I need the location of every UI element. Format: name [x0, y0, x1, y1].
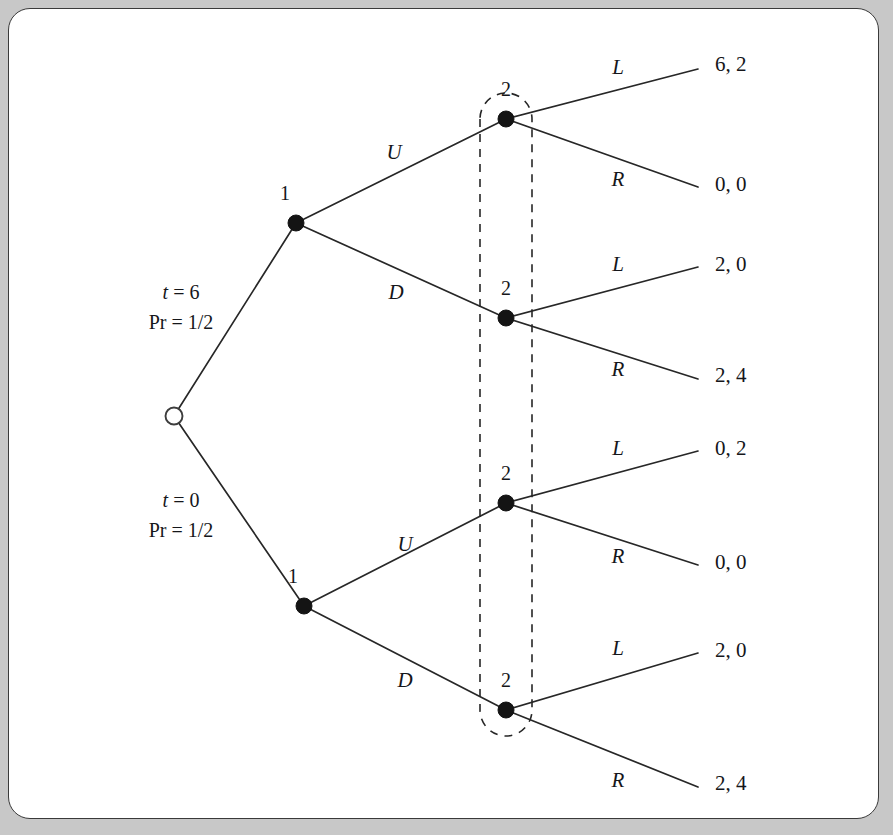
figure-panel: 1 1 2 2 2 2 t = 6 Pr = 1/2 t = 0 Pr = 1/…: [8, 8, 879, 819]
edge-p2-c-L: [506, 451, 698, 503]
payoff-label-2: 0, 0: [715, 172, 747, 196]
edge-p1-top-U: [296, 119, 506, 223]
player1-node-bottom: [296, 598, 312, 614]
player2-node-a: [498, 111, 514, 127]
player2-node-d: [498, 702, 514, 718]
payoff-label-6: 0, 0: [715, 550, 747, 574]
action-label-L-1: L: [611, 55, 624, 79]
payoff-label-1: 6, 2: [715, 52, 747, 76]
chance-branch-up-probability: Pr = 1/2: [149, 311, 214, 333]
player2-node-b: [498, 310, 514, 326]
action-label-U-bottom: U: [397, 532, 414, 556]
chance-branch-down-probability: Pr = 1/2: [149, 519, 214, 541]
chance-node: [166, 408, 183, 425]
player1-edges: [296, 119, 506, 710]
payoff-label-5: 0, 2: [715, 436, 747, 460]
player2-node-c-label: 2: [501, 462, 511, 484]
player2-node-a-label: 2: [501, 78, 511, 100]
player2-node-c: [498, 495, 514, 511]
edge-p2-b-L: [506, 267, 698, 318]
player2-node-b-label: 2: [501, 277, 511, 299]
player1-node-top-label: 1: [280, 182, 290, 204]
action-label-D-top: D: [387, 280, 403, 304]
action-label-L-2: L: [611, 252, 624, 276]
payoff-label-8: 2, 4: [715, 771, 747, 795]
player2-information-set: [480, 93, 532, 736]
game-tree-diagram: 1 1 2 2 2 2 t = 6 Pr = 1/2 t = 0 Pr = 1/…: [9, 9, 879, 819]
chance-branch-down-type: t = 0: [163, 489, 200, 511]
edge-p1-bottom-D: [304, 606, 506, 710]
edge-p2-b-R: [506, 318, 698, 379]
payoff-label-7: 2, 0: [715, 638, 747, 662]
action-label-R-2: R: [611, 357, 625, 381]
edge-p2-a-R: [506, 119, 698, 187]
payoff-label-3: 2, 0: [715, 252, 747, 276]
action-label-R-1: R: [611, 167, 625, 191]
action-label-U-top: U: [386, 140, 403, 164]
edge-p2-d-R: [506, 710, 698, 787]
action-label-R-3: R: [611, 544, 625, 568]
action-label-L-3: L: [611, 436, 624, 460]
action-label-R-4: R: [611, 768, 625, 792]
player1-node-top: [288, 215, 304, 231]
edge-chance-to-p1-bottom: [174, 416, 304, 606]
player2-node-d-label: 2: [501, 669, 511, 691]
edge-p2-a-L: [506, 69, 698, 119]
player1-node-bottom-label: 1: [288, 565, 298, 587]
chance-branch-up-type: t = 6: [163, 281, 200, 303]
player2-edges: [506, 69, 698, 787]
edge-p2-d-L: [506, 653, 698, 710]
action-label-L-4: L: [611, 636, 624, 660]
action-label-D-bottom: D: [396, 668, 412, 692]
edge-p2-c-R: [506, 503, 698, 565]
payoff-label-4: 2, 4: [715, 363, 747, 387]
